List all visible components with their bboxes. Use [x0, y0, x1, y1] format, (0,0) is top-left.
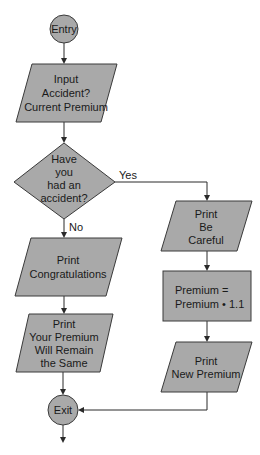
node-decision-line: Have	[51, 153, 77, 165]
node-remain: Print Your Premium Will Remain the Same	[16, 314, 113, 372]
node-careful-line: Careful	[188, 234, 223, 246]
node-remain-line: the Same	[40, 357, 87, 369]
arrowhead-icon	[204, 336, 210, 342]
arrowhead-icon	[60, 389, 66, 395]
node-newprem-line: Print	[195, 355, 218, 367]
arrowhead-icon	[61, 308, 67, 314]
node-careful-line: Be	[199, 221, 212, 233]
node-input-line: Accident?	[42, 87, 90, 99]
arrowhead-icon	[61, 137, 67, 143]
node-decision: Have you had an accident?	[14, 143, 115, 219]
arrowhead-icon	[204, 195, 210, 201]
node-exit: Exit	[48, 395, 78, 425]
node-newprem-line: New Premium	[171, 368, 240, 380]
edge-label-yes: Yes	[119, 169, 137, 181]
arrowhead-icon	[78, 407, 84, 413]
io-parallelogram	[15, 238, 122, 296]
process-rectangle	[163, 271, 251, 321]
arrowhead-icon	[204, 265, 210, 271]
node-input: Input Accident? Current Premium	[16, 64, 117, 122]
arrowhead-icon	[61, 232, 67, 238]
node-remain-line: Print	[53, 318, 76, 330]
node-entry: Entry	[50, 15, 78, 43]
node-congrats: Print Congratulations	[15, 238, 122, 296]
node-decision-line: you	[55, 166, 73, 178]
arrowhead-icon	[60, 437, 66, 443]
io-parallelogram	[161, 342, 252, 392]
node-calc: Premium = Premium • 1.1	[163, 271, 251, 321]
node-decision-line: had an	[47, 179, 81, 191]
node-careful-line: Print	[195, 208, 218, 220]
node-calc-line: Premium =	[175, 284, 229, 296]
edge-label-no: No	[69, 221, 83, 233]
node-exit-label: Exit	[54, 404, 72, 416]
node-calc-line: Premium • 1.1	[175, 298, 244, 310]
node-congrats-line: Congratulations	[29, 268, 107, 280]
arrowhead-icon	[61, 58, 67, 64]
node-input-line: Current Premium	[24, 101, 108, 113]
node-remain-line: Will Remain	[35, 344, 94, 356]
edge-newprem-exit	[81, 392, 207, 410]
node-remain-line: Your Premium	[29, 331, 98, 343]
flowchart-canvas: Yes No Entry Input Accident? Current Pre…	[0, 0, 260, 455]
node-input-line: Input	[54, 73, 78, 85]
node-congrats-line: Print	[57, 254, 80, 266]
node-entry-label: Entry	[51, 23, 77, 35]
edge-decision-careful	[115, 182, 207, 198]
node-decision-line: accident?	[40, 192, 87, 204]
node-newprem: Print New Premium	[161, 342, 252, 392]
node-careful: Print Be Careful	[161, 201, 252, 251]
